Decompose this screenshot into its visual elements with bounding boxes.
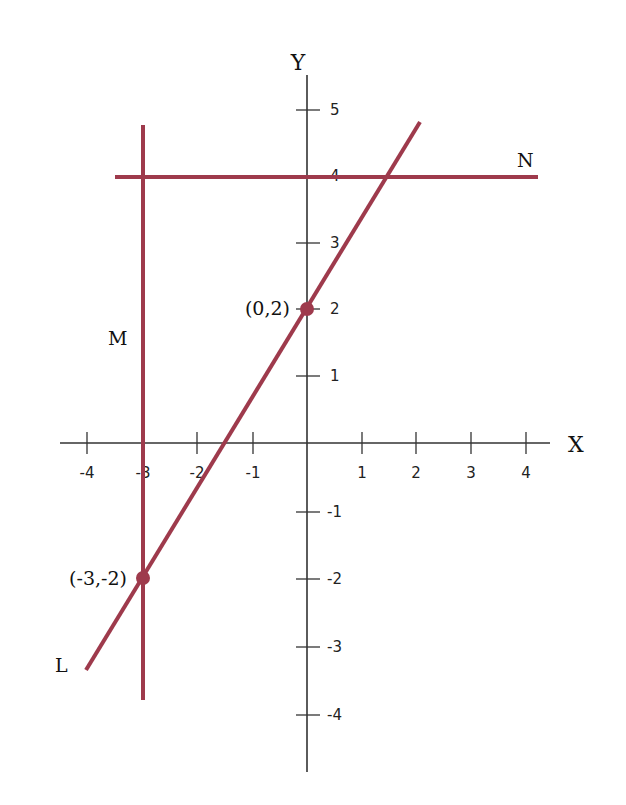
svg-text:1: 1 bbox=[357, 464, 367, 482]
svg-text:3: 3 bbox=[466, 464, 476, 482]
svg-text:-1: -1 bbox=[327, 503, 342, 521]
coordinate-plane: -4 -3 -2 -1 1 2 3 4 5 4 3 2 1 -1 -2 -3 -… bbox=[0, 0, 626, 805]
point-0-2-marker bbox=[300, 302, 314, 316]
svg-text:-1: -1 bbox=[246, 464, 261, 482]
svg-text:1: 1 bbox=[330, 367, 340, 385]
point-neg3-neg2-marker bbox=[136, 571, 150, 585]
svg-text:4: 4 bbox=[521, 464, 531, 482]
point-neg3-neg2-label: (-3,-2) bbox=[69, 567, 127, 589]
x-axis-label: X bbox=[568, 432, 584, 457]
svg-text:-4: -4 bbox=[327, 706, 342, 724]
line-n-label: N bbox=[517, 149, 534, 171]
line-l bbox=[86, 122, 420, 670]
svg-text:5: 5 bbox=[330, 101, 340, 119]
y-tick-labels: 5 4 3 2 1 -1 -2 -3 -4 bbox=[327, 101, 342, 724]
svg-text:-4: -4 bbox=[80, 464, 95, 482]
y-ticks bbox=[296, 110, 320, 715]
line-l-label: L bbox=[55, 654, 68, 676]
point-0-2-label: (0,2) bbox=[245, 297, 290, 319]
svg-text:-3: -3 bbox=[327, 638, 342, 656]
svg-text:3: 3 bbox=[330, 234, 340, 252]
svg-text:-2: -2 bbox=[327, 570, 342, 588]
x-tick-labels: -4 -3 -2 -1 1 2 3 4 bbox=[80, 464, 531, 482]
svg-text:2: 2 bbox=[330, 300, 340, 318]
svg-text:2: 2 bbox=[411, 464, 421, 482]
line-m-label: M bbox=[108, 327, 127, 349]
y-axis-label: Y bbox=[290, 50, 306, 75]
